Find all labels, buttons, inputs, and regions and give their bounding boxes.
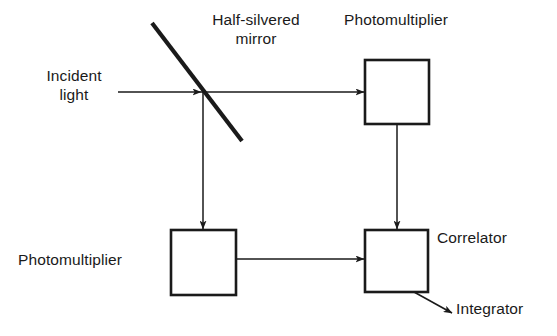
incident-light-label-line1: Incident [46, 67, 101, 84]
photomultiplier-top-box [365, 60, 429, 124]
photomultiplier-bottom-label: Photomultiplier [18, 250, 122, 269]
photomultiplier-top-label: Photomultiplier [344, 10, 448, 29]
half-silvered-mirror-label: Half-silveredmirror [186, 10, 326, 48]
integrator-label: Integrator [456, 299, 523, 318]
correlator-box [365, 230, 428, 292]
diagram-graphics [0, 0, 557, 336]
incident-light-label: Incidentlight [32, 66, 116, 104]
incident-light-label-line2: light [60, 86, 89, 103]
half-silvered-mirror-label-line2: mirror [235, 30, 276, 47]
half-silvered-mirror-label-line1: Half-silvered [212, 11, 299, 28]
correlator-label: Correlator [437, 228, 507, 247]
correlator-to-integrator-arrow [414, 292, 452, 313]
diagram-canvas: Incidentlight Half-silveredmirror Photom… [0, 0, 557, 336]
photomultiplier-bottom-box [171, 230, 236, 295]
